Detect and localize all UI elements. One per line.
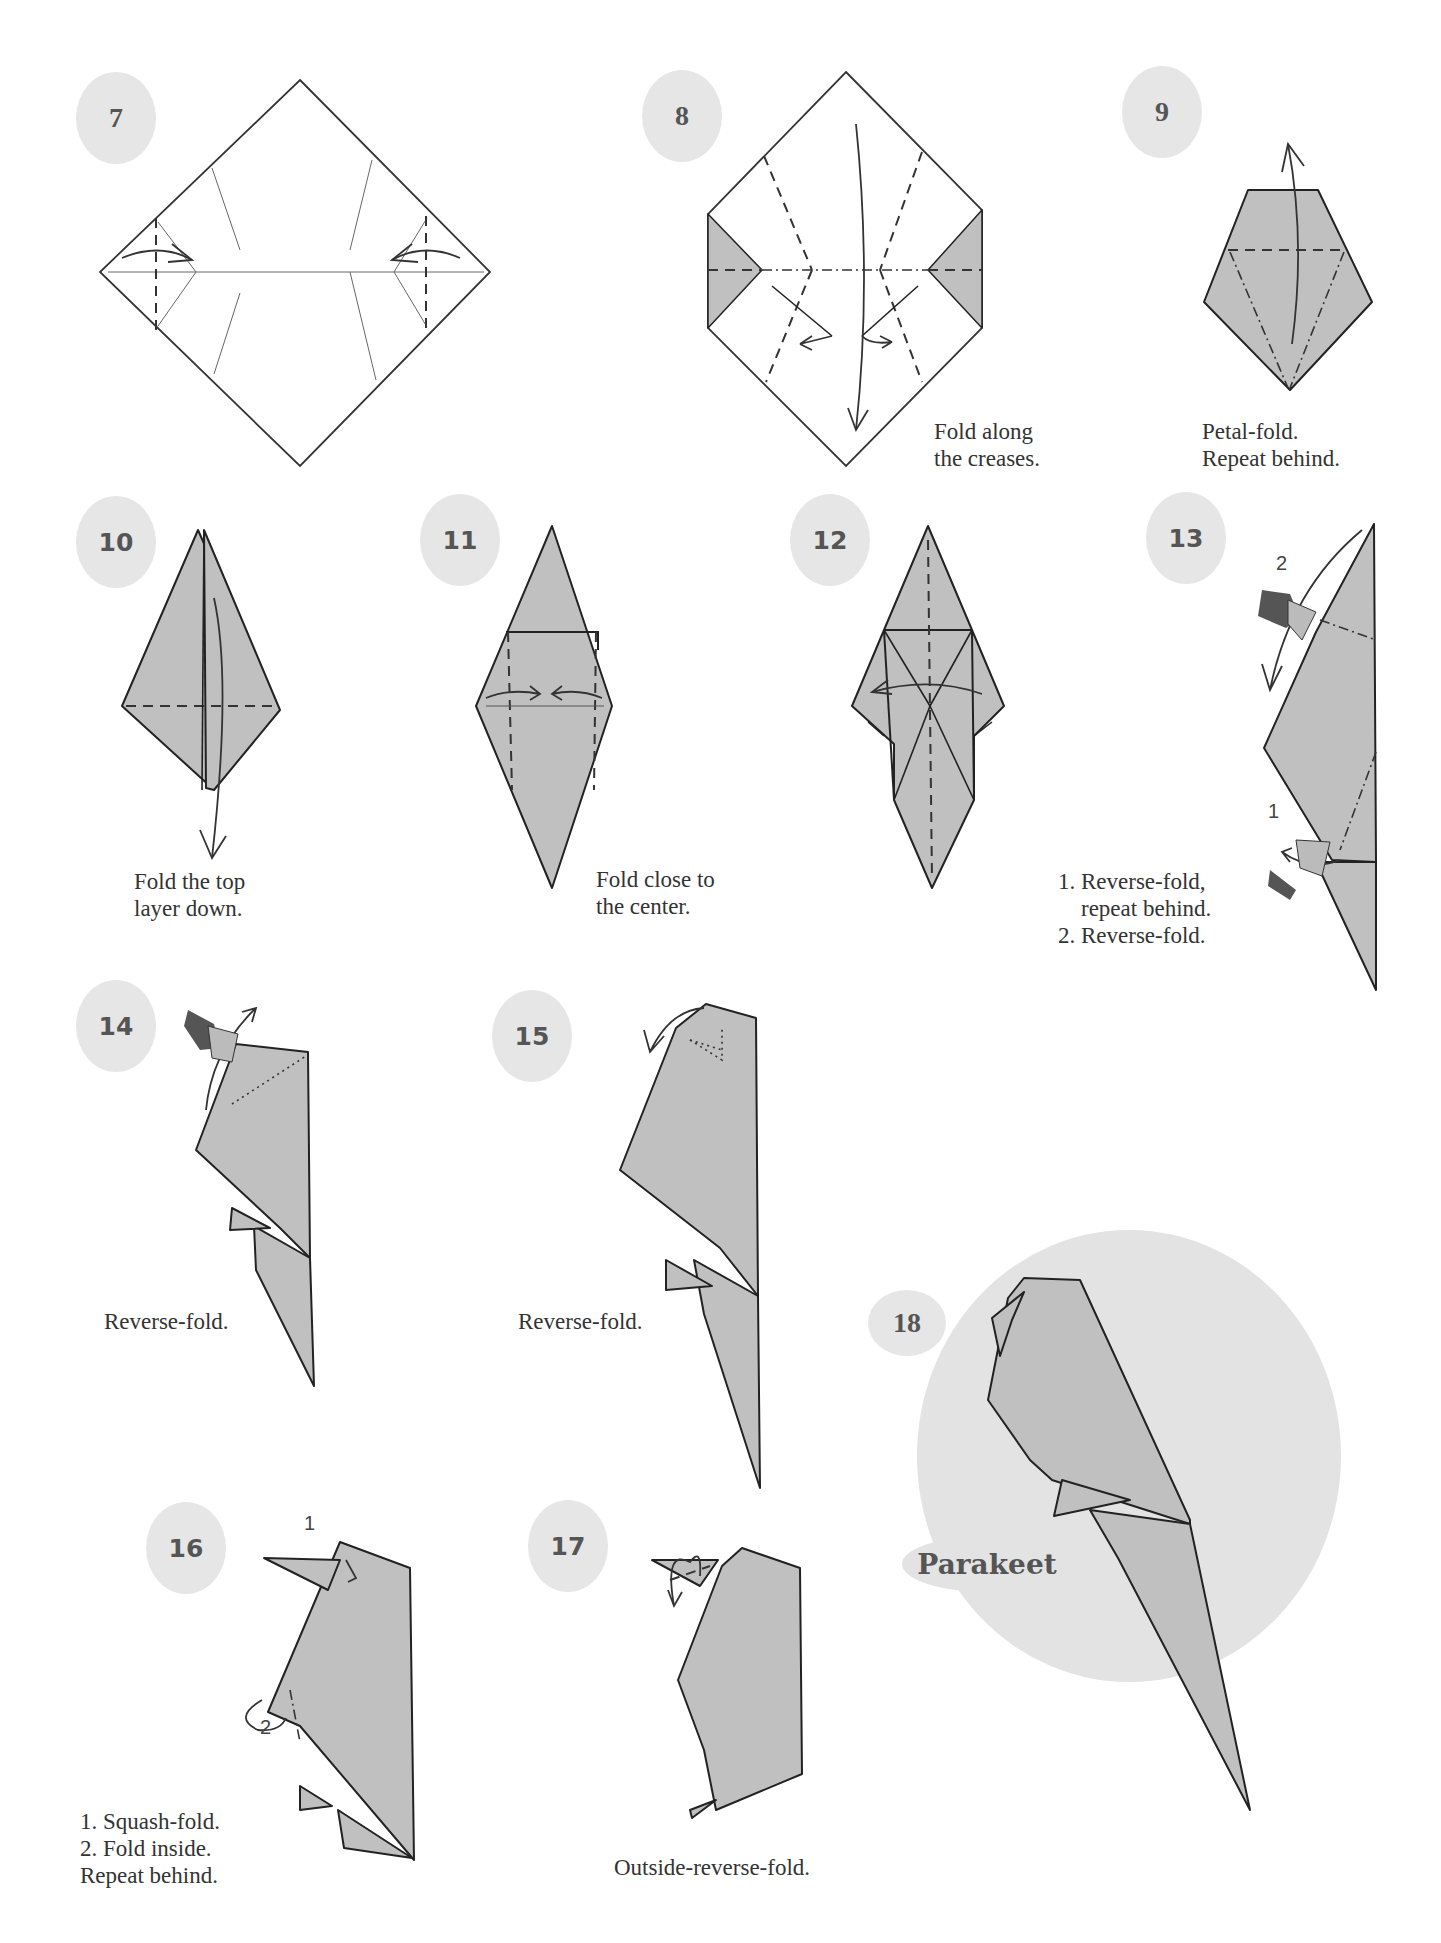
- step-13-diagram: [1258, 524, 1376, 990]
- step-16-caption: 1. Squash-fold. 2. Fold inside. Repeat b…: [80, 1808, 220, 1889]
- step-number: 13: [1169, 524, 1204, 553]
- step-9-diagram: [1204, 144, 1372, 390]
- step-badge-7: 7: [76, 72, 156, 164]
- step-badge-17: 17: [528, 1500, 608, 1592]
- step-17-caption: Outside-reverse-fold.: [614, 1854, 810, 1881]
- step-badge-8: 8: [642, 70, 722, 162]
- step-badge-9: 9: [1122, 66, 1202, 158]
- step-15-caption: Reverse-fold.: [518, 1308, 643, 1335]
- step-17-diagram: [652, 1548, 802, 1818]
- step-badge-12: 12: [790, 494, 870, 586]
- step-8-diagram: [708, 72, 982, 466]
- step-number: 9: [1155, 96, 1169, 128]
- step-number: 14: [99, 1012, 134, 1041]
- step-8-caption: Fold along the creases.: [934, 418, 1040, 472]
- step-number: 18: [893, 1307, 921, 1339]
- step-number: 11: [443, 526, 478, 555]
- step-13-label-2: 2: [1276, 552, 1287, 575]
- model-title-text: Parakeet: [917, 1548, 1056, 1581]
- step-badge-14: 14: [76, 980, 156, 1072]
- step-16-diagram: [246, 1542, 414, 1860]
- step-badge-10: 10: [76, 496, 156, 588]
- step-badge-11: 11: [420, 494, 500, 586]
- step-11-caption: Fold close to the center.: [596, 866, 715, 920]
- step-badge-13: 13: [1146, 492, 1226, 584]
- step-13-caption: 1. Reverse-fold, repeat behind. 2. Rever…: [1058, 868, 1211, 949]
- step-16-label-1: 1: [304, 1512, 315, 1535]
- step-number: 17: [551, 1532, 586, 1561]
- step-16-label-2: 2: [260, 1716, 271, 1739]
- step-number: 7: [109, 102, 123, 134]
- step-11-diagram: [476, 526, 612, 888]
- step-number: 15: [515, 1022, 550, 1051]
- diagram-canvas: [0, 0, 1441, 1943]
- step-number: 10: [99, 528, 134, 557]
- step-number: 8: [675, 100, 689, 132]
- step-10-diagram: [122, 530, 280, 858]
- step-15-diagram: [620, 1004, 760, 1488]
- step-badge-18: 18: [868, 1290, 946, 1356]
- step-10-caption: Fold the top layer down.: [134, 868, 245, 922]
- step-7-diagram: [100, 80, 490, 466]
- step-badge-15: 15: [492, 990, 572, 1082]
- step-9-caption: Petal-fold. Repeat behind.: [1202, 418, 1340, 472]
- step-13-label-1: 1: [1268, 800, 1279, 823]
- origami-instruction-page: 7 8 9 10 11 12 13 14 15 16 17 18 2 1 1 2…: [0, 0, 1441, 1943]
- step-14-caption: Reverse-fold.: [104, 1308, 229, 1335]
- model-title: Parakeet: [902, 1536, 1072, 1592]
- step-12-diagram: [852, 526, 1004, 888]
- step-badge-16: 16: [146, 1502, 226, 1594]
- step-number: 16: [169, 1534, 204, 1563]
- step-number: 12: [813, 526, 848, 555]
